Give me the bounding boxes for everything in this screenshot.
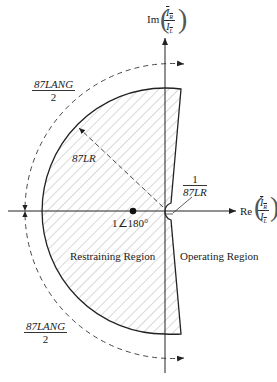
operating-region-label: Operating Region [180, 250, 259, 262]
re-text: Re [240, 205, 252, 217]
im-text: Im [147, 13, 159, 25]
angle-label-bottom: 87LANG 2 [24, 320, 67, 345]
imag-axis-label: Im [147, 13, 159, 25]
restraining-region-label: Restraining Region [70, 250, 155, 262]
inner-radius-label: 1 87LR [183, 173, 207, 198]
radius-label: 87LR [72, 152, 96, 164]
point-label: 1∠180° [112, 217, 148, 230]
real-axis-label: Re [240, 205, 252, 217]
point-one-180 [130, 208, 137, 215]
angle-label-top: 87LANG 2 [32, 78, 75, 103]
